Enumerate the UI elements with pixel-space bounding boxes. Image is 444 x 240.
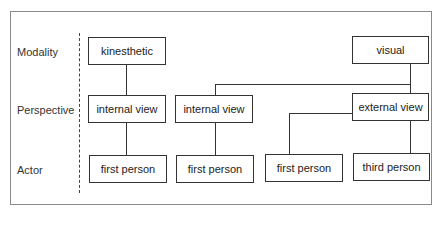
edge-external-view-first-person-3-v [289, 113, 290, 154]
node-internal-view-1: internal view [88, 95, 166, 123]
node-kinesthetic: kinesthetic [88, 37, 166, 65]
edge-kinesthetic-internal-view-1 [126, 65, 127, 95]
edge-visual-stem [410, 63, 411, 93]
label-divider [79, 33, 80, 193]
node-visual: visual [352, 36, 429, 64]
row-label-modality: Modality [17, 45, 58, 59]
edge-visual-branch [215, 84, 411, 85]
row-label-perspective: Perspective [17, 103, 74, 117]
edge-external-view-first-person-3-h [289, 113, 352, 114]
node-third-person: third person [353, 153, 430, 181]
row-label-actor: Actor [17, 163, 43, 177]
edge-internal-view-2-first-person-2 [215, 122, 216, 155]
edge-visual-internal-view-2 [215, 84, 216, 95]
node-first-person-2: first person [176, 155, 254, 183]
node-first-person-1: first person [89, 155, 167, 183]
edge-external-view-third-person [410, 120, 411, 153]
node-first-person-3: first person [265, 154, 343, 182]
node-internal-view-2: internal view [175, 95, 253, 123]
node-external-view: external view [352, 93, 429, 121]
edge-internal-view-1-first-person-1 [126, 122, 127, 155]
